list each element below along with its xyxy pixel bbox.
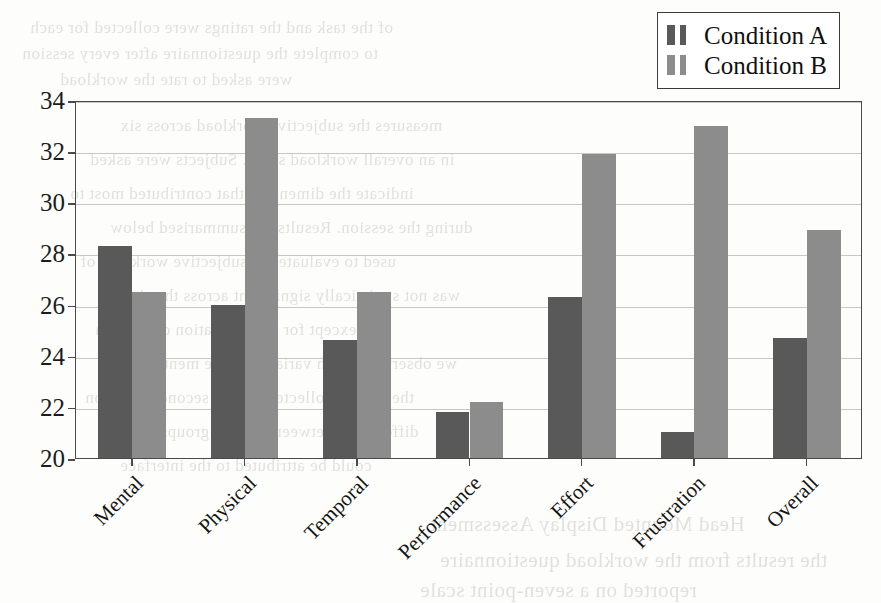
- bar-mental-condition-a: [98, 246, 132, 458]
- y-axis-tick-label: 30: [17, 189, 65, 217]
- gridline: [76, 255, 861, 256]
- x-tick-mark: [469, 459, 471, 466]
- y-axis-tick-label: 32: [17, 138, 65, 166]
- bar-frustration-condition-b: [694, 126, 728, 458]
- x-tick-mark: [693, 459, 695, 466]
- legend-label: Condition A: [704, 23, 827, 48]
- bar-effort-condition-a: [548, 297, 582, 458]
- gridline: [76, 358, 861, 359]
- x-tick-mark: [244, 459, 246, 466]
- ghost-line: were asked to rate the workload: [60, 70, 292, 90]
- y-axis-tick-label: 20: [17, 445, 65, 473]
- legend-entry-condition-a: Condition A: [667, 20, 827, 50]
- legend-swatch-icon: [667, 25, 693, 45]
- y-axis-tick-label: 28: [17, 240, 65, 268]
- legend-swatch-bar: [680, 25, 686, 45]
- bar-performance-condition-a: [436, 412, 470, 458]
- y-axis-tick-label: 26: [17, 292, 65, 320]
- bar-overall-condition-b: [807, 230, 841, 458]
- x-tick-mark: [806, 459, 808, 466]
- y-tick-mark: [68, 306, 75, 308]
- gridline: [76, 204, 861, 205]
- y-tick-mark: [68, 254, 75, 256]
- bar-frustration-condition-a: [661, 432, 695, 458]
- y-tick-mark: [68, 152, 75, 154]
- y-tick-mark: [68, 203, 75, 205]
- chart-legend: Condition A Condition B: [657, 12, 840, 89]
- legend-swatch-bar: [667, 25, 675, 45]
- legend-swatch-icon: [667, 55, 693, 75]
- bar-effort-condition-b: [582, 154, 616, 458]
- gridline: [76, 307, 861, 308]
- gridline: [76, 153, 861, 154]
- chart-plot-area: [75, 101, 862, 459]
- legend-entry-condition-b: Condition B: [667, 50, 827, 80]
- bar-physical-condition-a: [211, 305, 245, 458]
- y-axis-tick-label: 34: [17, 87, 65, 115]
- legend-swatch-bar: [680, 55, 686, 75]
- y-tick-mark: [68, 101, 75, 103]
- ghost-line: of the task and the ratings were collect…: [30, 18, 393, 38]
- x-tick-mark: [356, 459, 358, 466]
- chart-canvas: [76, 102, 861, 458]
- scanned-page: of the task and the ratings were collect…: [0, 0, 881, 603]
- gridline: [76, 102, 861, 103]
- x-axis-tick-label: Mental: [0, 471, 149, 603]
- ghost-line: to complete the questionnaire after ever…: [22, 44, 378, 64]
- y-tick-mark: [68, 408, 75, 410]
- bar-mental-condition-b: [132, 292, 166, 458]
- bar-temporal-condition-a: [323, 340, 357, 458]
- y-tick-mark: [68, 459, 75, 461]
- bar-physical-condition-b: [245, 118, 279, 458]
- gridline: [76, 409, 861, 410]
- x-tick-mark: [581, 459, 583, 466]
- x-tick-mark: [131, 459, 133, 466]
- bar-performance-condition-b: [470, 402, 504, 458]
- y-axis-tick-label: 22: [17, 394, 65, 422]
- legend-swatch-bar: [667, 55, 675, 75]
- bar-overall-condition-a: [773, 338, 807, 458]
- ghost-line: Head Mounted Display Assessment: [430, 512, 745, 537]
- y-axis-tick-label: 24: [17, 343, 65, 371]
- bar-temporal-condition-b: [357, 292, 391, 458]
- legend-label: Condition B: [704, 53, 827, 78]
- y-tick-mark: [68, 357, 75, 359]
